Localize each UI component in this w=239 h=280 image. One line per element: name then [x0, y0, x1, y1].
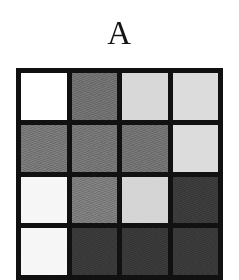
- matrix-cell-r3-c4: [173, 177, 219, 224]
- matrix-cell-r1-c4: [173, 73, 219, 120]
- matrix-cell-r4-c1: [21, 228, 67, 275]
- matrix-cell-r2-c2: [72, 125, 118, 172]
- matrix-cell-r2-c3: [122, 125, 168, 172]
- matrix-cell-r3-c3: [122, 177, 168, 224]
- matrix-cell-r2-c4: [173, 125, 219, 172]
- matrix-cell-r1-c3: [122, 73, 168, 120]
- matrix-cell-r4-c2: [72, 228, 118, 275]
- matrix-cell-r3-c1: [21, 177, 67, 224]
- matrix-cell-r1-c1: [21, 73, 67, 120]
- matrix-cell-r4-c3: [122, 228, 168, 275]
- matrix-cell-r2-c1: [21, 125, 67, 172]
- matrix-cell-r4-c4: [173, 228, 219, 275]
- matrix-cell-r3-c2: [72, 177, 118, 224]
- panel-title: A: [0, 14, 239, 52]
- matrix-cell-r1-c2: [72, 73, 118, 120]
- matrix-heatmap-grid: [16, 68, 223, 280]
